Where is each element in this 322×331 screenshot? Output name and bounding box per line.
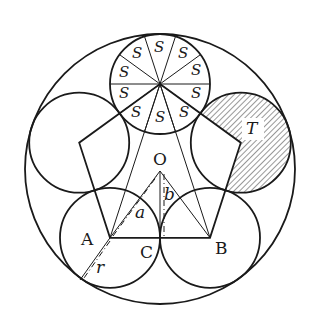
label-t: T — [246, 118, 259, 138]
svg-text:S: S — [179, 103, 189, 121]
label-c: C — [140, 242, 153, 262]
label-b: B — [215, 238, 228, 258]
label-r: r — [96, 257, 105, 277]
svg-text:S: S — [119, 63, 129, 81]
label-a: A — [80, 229, 94, 249]
svg-text:S: S — [191, 61, 201, 79]
label-b-segment: b — [164, 184, 175, 204]
label-a-segment: a — [135, 202, 145, 222]
svg-text:S: S — [191, 84, 201, 102]
geometry-diagram: S S S S S S S S S S O A B C a b r T — [0, 0, 322, 331]
svg-text:S: S — [132, 44, 142, 62]
svg-text:S: S — [178, 44, 188, 62]
svg-text:S: S — [119, 84, 129, 102]
svg-text:S: S — [155, 108, 165, 126]
svg-text:S: S — [154, 38, 164, 56]
svg-text:S: S — [131, 103, 141, 121]
label-o: O — [153, 149, 167, 169]
